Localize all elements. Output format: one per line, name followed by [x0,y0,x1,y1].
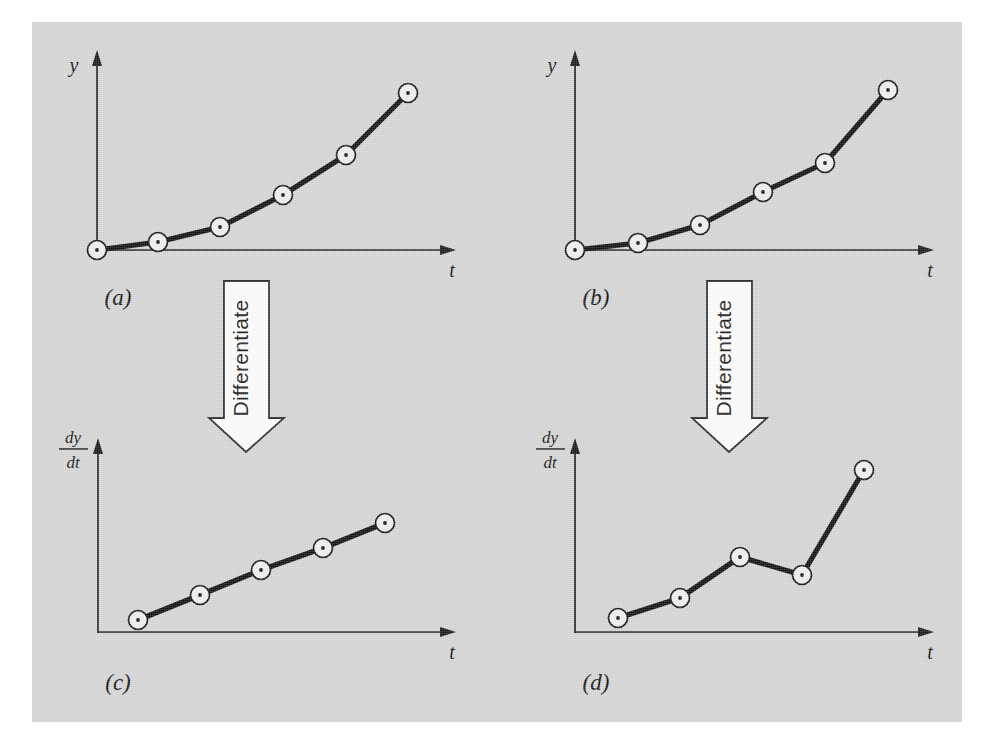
panel-c-y-axis-denominator: dt [66,453,81,472]
data-point [793,566,812,585]
panel-d-y-axis-denominator: dt [543,453,558,472]
panel-d-x-axis-label: t [927,641,933,663]
data-point [191,586,210,605]
panel-b-caption: (b) [583,285,610,310]
data-point [816,154,835,173]
figure-root: y t (a) y t (b) Dif [0,0,1007,747]
panel-d-y-axis-numerator: dy [542,428,559,447]
panel-a-x-axis-label: t [449,259,455,281]
data-point [731,548,750,567]
data-point [376,514,395,533]
differentiate-arrow-right-label: Differentiate [712,300,735,417]
plate-background [32,22,962,722]
panel-a-y-axis-label: y [68,54,79,77]
data-point [566,241,585,260]
data-point [314,539,333,558]
data-point [252,561,271,580]
data-point [274,186,293,205]
data-point [754,183,773,202]
data-point [129,611,148,630]
data-point [399,84,418,103]
panel-d-caption: (d) [583,670,610,695]
data-point [609,609,628,628]
data-point [855,461,874,480]
data-point [337,146,356,165]
data-point [879,81,898,100]
panel-c-x-axis-label: t [449,641,455,663]
data-point [149,233,168,252]
data-point [629,234,648,253]
data-point [88,241,107,260]
panel-c-caption: (c) [105,670,131,695]
panel-b-y-axis-label: y [546,54,557,77]
data-point [211,218,230,237]
differentiate-arrow-left-label: Differentiate [229,300,252,417]
panel-a-caption: (a) [105,285,132,310]
data-point [691,216,710,235]
data-point [671,589,690,608]
panel-b-x-axis-label: t [927,259,933,281]
panel-c-y-axis-numerator: dy [65,428,82,447]
figure-canvas: y t (a) y t (b) Dif [0,0,1007,747]
